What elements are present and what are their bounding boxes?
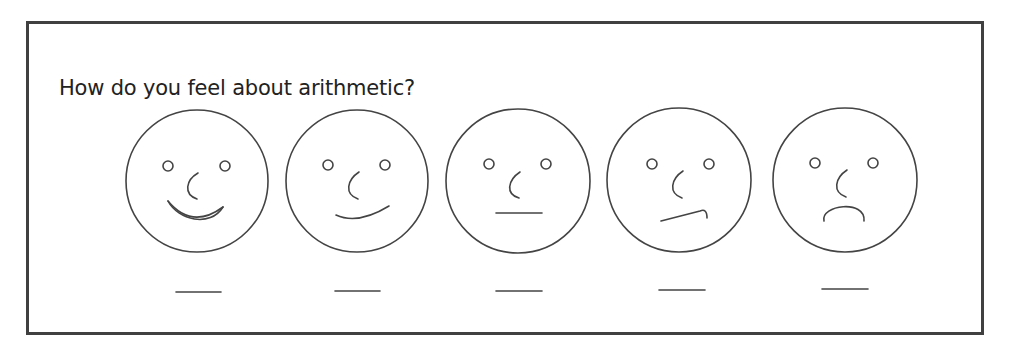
face-sad-option[interactable] [773, 108, 917, 289]
right-eye-icon [541, 159, 551, 169]
nose-icon [510, 172, 520, 198]
left-eye-icon [810, 158, 820, 168]
left-eye-icon [647, 159, 657, 169]
right-eye-icon [220, 161, 230, 171]
face-outline-icon [126, 110, 268, 252]
mouth-icon [336, 206, 389, 218]
left-eye-icon [323, 160, 333, 170]
face-outline-icon [286, 110, 428, 252]
nose-icon [188, 173, 198, 199]
nose-icon [837, 170, 847, 197]
face-outline-icon [607, 108, 751, 252]
face-unsure-option[interactable] [607, 108, 751, 290]
face-outline-icon [446, 109, 590, 253]
left-eye-icon [484, 159, 494, 169]
face-happy-option[interactable] [286, 110, 428, 291]
mouth-icon [824, 207, 864, 221]
right-eye-icon [868, 158, 878, 168]
right-eye-icon [704, 159, 714, 169]
left-eye-icon [163, 161, 173, 171]
face-very-happy-option[interactable] [126, 110, 268, 292]
right-eye-icon [380, 160, 390, 170]
feelings-scale [0, 0, 1015, 345]
face-outline-icon [773, 108, 917, 252]
nose-icon [673, 171, 683, 198]
nose-icon [349, 172, 359, 199]
mouth-icon [661, 210, 707, 221]
face-neutral-option[interactable] [446, 109, 590, 291]
